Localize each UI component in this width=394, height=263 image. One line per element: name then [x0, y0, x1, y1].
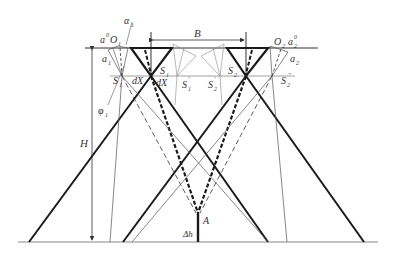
svg-text:a: a [100, 34, 105, 45]
s2-ray-to-A [198, 76, 246, 213]
svg-text:2: 2 [282, 43, 285, 49]
svg-text:a: a [288, 36, 293, 47]
svg-text:″: ″ [288, 71, 291, 79]
s2-fov-right [246, 76, 364, 242]
s1-fov-left [29, 76, 151, 242]
stereo-geometry-diagram: B H A Δh α 1 a 0 O 1 a 1 S 1 φ 1 dX dX S… [0, 0, 394, 263]
svg-text:S: S [228, 65, 233, 76]
svg-text:a: a [102, 53, 107, 64]
s2pp-thin-right [272, 76, 287, 242]
svg-text:S: S [208, 79, 213, 90]
label-O1: O 1 [110, 34, 121, 47]
svg-text:a: a [290, 53, 295, 64]
label-S2-dprime: S 2 ″ [281, 71, 291, 88]
label-H: H [79, 137, 89, 149]
left-tilted-fan [108, 46, 128, 76]
right-fan-ray [272, 49, 281, 76]
svg-text:φ: φ [98, 105, 104, 116]
svg-text:1: 1 [166, 72, 169, 78]
svg-text:S: S [160, 65, 165, 76]
svg-text:O: O [110, 34, 117, 45]
svg-text:1: 1 [188, 86, 191, 92]
s1-prime-fan [173, 44, 196, 76]
label-dX2: dX [156, 77, 168, 88]
label-a2-0: a 0 2 [288, 34, 297, 49]
s1p-thin-right [122, 76, 268, 242]
label-dh: Δh [182, 229, 193, 239]
label-S1-prime: S 1 ′ [182, 75, 191, 92]
label-a1-0: a 0 [100, 32, 109, 45]
s2-fov-left [123, 76, 246, 242]
svg-text:1: 1 [131, 22, 134, 28]
label-a1: a 1 [102, 53, 111, 66]
svg-text:S: S [281, 75, 286, 86]
svg-text:2: 2 [234, 72, 237, 78]
svg-text:O: O [274, 36, 281, 47]
svg-text:1: 1 [108, 60, 111, 66]
svg-text:1: 1 [105, 112, 108, 118]
s2-prime-fan-ray [213, 48, 220, 76]
label-A: A [202, 215, 210, 226]
right-tilted-fan [270, 46, 288, 76]
s1-ray-to-A [151, 76, 198, 213]
svg-text:1: 1 [118, 41, 121, 47]
svg-text:0: 0 [294, 34, 297, 40]
label-alpha1: α 1 [124, 15, 134, 28]
svg-text:α: α [124, 15, 130, 26]
svg-text:2: 2 [296, 60, 299, 66]
label-dX1: dX [132, 75, 144, 86]
s1p-thin-left [110, 76, 122, 242]
svg-text:S: S [182, 79, 187, 90]
s1-prime-down [175, 76, 177, 105]
label-S2-prime: S 2 ′ [208, 75, 217, 92]
label-B: B [194, 27, 201, 39]
svg-text:S: S [113, 75, 118, 86]
svg-text:0: 0 [106, 32, 109, 38]
svg-text:2: 2 [294, 43, 297, 49]
svg-text:2: 2 [214, 86, 217, 92]
s1-prime-fan-ray [177, 48, 184, 76]
s1-fov-right [151, 76, 268, 242]
label-phi1: φ 1 [98, 105, 108, 118]
label-O2: O 2 [274, 36, 285, 49]
svg-text:2: 2 [287, 82, 290, 88]
label-a2: a 2 [290, 53, 299, 66]
label-S1-dprime: S 1 [113, 75, 122, 88]
s2-prime-down [220, 76, 222, 105]
s2-prime-fan [201, 44, 224, 76]
svg-text:1: 1 [119, 82, 122, 88]
